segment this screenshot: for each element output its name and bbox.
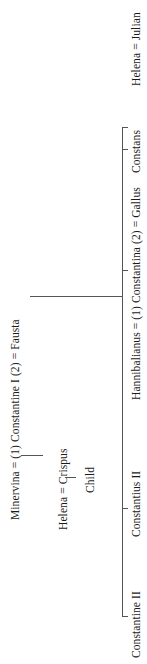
- tick-constantius-ii: [122, 508, 128, 509]
- crispus-marriage-line: Helena = Crispus: [57, 448, 69, 530]
- children-bar: [122, 127, 123, 617]
- child-constantina-marriages: Hannibalianus = (1) Constantina (2) = Ga…: [130, 187, 142, 400]
- child-descent-line: [65, 477, 76, 478]
- tick-constans: [122, 149, 128, 150]
- tick-constantina: [122, 270, 128, 271]
- fausta-descent-line: [30, 296, 122, 297]
- tick-helena: [122, 127, 128, 128]
- child-constans: Constans: [130, 130, 142, 173]
- tick-constantine-ii: [122, 616, 128, 617]
- family-tree-diagram: Minervina = (1) Constantine I (2) = Faus…: [0, 0, 147, 664]
- constantine-i-marriages-line: Minervina = (1) Constantine I (2) = Faus…: [9, 319, 21, 520]
- child-constantine-ii: Constantine II: [130, 591, 142, 658]
- crispus-descent-line-h: [21, 455, 43, 456]
- child-constantius-ii: Constantius II: [130, 471, 142, 537]
- child-label: Child: [84, 467, 96, 493]
- child-helena-julian: Helena = Julian: [130, 12, 142, 86]
